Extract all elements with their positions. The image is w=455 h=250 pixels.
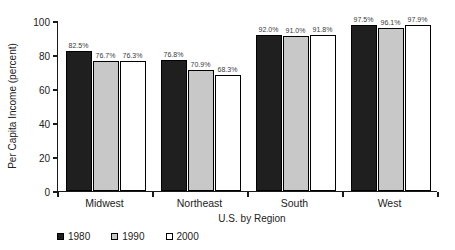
x-axis-title: U.S. by Region bbox=[57, 213, 447, 224]
legend: 198019902000 bbox=[57, 231, 199, 242]
y-axis-tick-label: 40 bbox=[39, 119, 50, 130]
y-axis-tick-label: 60 bbox=[39, 85, 50, 96]
y-axis-title: Per Capita Income (percent) bbox=[7, 43, 18, 169]
y-axis-tick-label: 100 bbox=[33, 17, 50, 28]
per-capita-income-bar-chart: Per Capita Income (percent) 020406080100… bbox=[0, 0, 455, 250]
bar-south-2000: 91.8% bbox=[310, 35, 336, 191]
y-axis-tick-label: 20 bbox=[39, 153, 50, 164]
bar-northeast-1980: 76.8% bbox=[161, 60, 187, 191]
bar-value-label: 76.7% bbox=[96, 52, 116, 59]
bar-value-label: 97.9% bbox=[408, 16, 428, 23]
bar-northeast-2000: 68.3% bbox=[215, 75, 241, 191]
bar-value-label: 76.8% bbox=[164, 51, 184, 58]
bar-group-northeast: 76.8%70.9%68.3% bbox=[153, 22, 248, 191]
bar-west-1980: 97.5% bbox=[351, 25, 377, 191]
bar-value-label: 96.1% bbox=[381, 19, 401, 26]
bar-south-1980: 92.0% bbox=[256, 35, 282, 191]
plot-area: 02040608010082.5%76.7%76.3%76.8%70.9%68.… bbox=[57, 22, 437, 192]
bar-group-west: 97.5%96.1%97.9% bbox=[343, 22, 438, 191]
x-category-label-west: West bbox=[342, 197, 437, 209]
y-axis-tick-label: 0 bbox=[44, 187, 50, 198]
legend-swatch-icon bbox=[57, 233, 64, 240]
bar-west-2000: 97.9% bbox=[405, 25, 431, 191]
legend-swatch-icon bbox=[166, 233, 173, 240]
y-axis-tick-label: 80 bbox=[39, 51, 50, 62]
bar-value-label: 70.9% bbox=[191, 61, 211, 68]
bar-value-label: 91.8% bbox=[313, 26, 333, 33]
bar-south-1990: 91.0% bbox=[283, 36, 309, 191]
bar-value-label: 92.0% bbox=[259, 26, 279, 33]
bar-group-midwest: 82.5%76.7%76.3% bbox=[58, 22, 153, 191]
bar-midwest-1980: 82.5% bbox=[66, 51, 92, 191]
bar-midwest-1990: 76.7% bbox=[93, 61, 119, 191]
bar-value-label: 76.3% bbox=[123, 52, 143, 59]
legend-item-2000: 2000 bbox=[166, 231, 199, 242]
legend-label: 1980 bbox=[68, 231, 90, 242]
legend-item-1990: 1990 bbox=[111, 231, 144, 242]
bar-value-label: 97.5% bbox=[354, 16, 374, 23]
x-axis-tick bbox=[437, 192, 439, 197]
bar-northeast-1990: 70.9% bbox=[188, 70, 214, 191]
legend-swatch-icon bbox=[111, 233, 118, 240]
x-category-label-midwest: Midwest bbox=[57, 197, 152, 209]
x-category-label-south: South bbox=[247, 197, 342, 209]
legend-item-1980: 1980 bbox=[57, 231, 90, 242]
bar-midwest-2000: 76.3% bbox=[120, 61, 146, 191]
legend-label: 2000 bbox=[177, 231, 199, 242]
bar-value-label: 91.0% bbox=[286, 27, 306, 34]
bar-group-south: 92.0%91.0%91.8% bbox=[248, 22, 343, 191]
legend-label: 1990 bbox=[122, 231, 144, 242]
bar-value-label: 82.5% bbox=[69, 42, 89, 49]
bar-west-1990: 96.1% bbox=[378, 28, 404, 191]
bar-value-label: 68.3% bbox=[218, 66, 238, 73]
x-category-label-northeast: Northeast bbox=[152, 197, 247, 209]
